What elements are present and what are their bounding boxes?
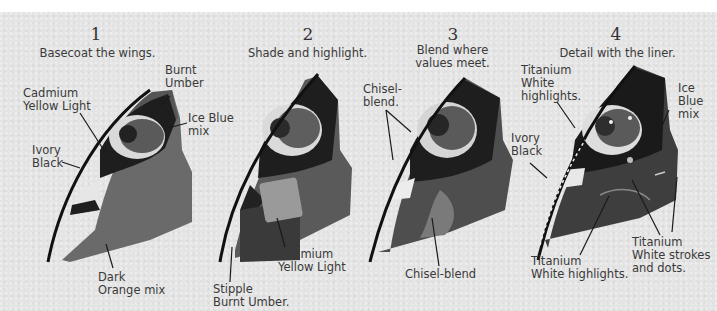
label-dark-orange-mix: Dark Orange mix — [98, 271, 165, 297]
label-ice-blue-mix: Ice Blue mix — [188, 112, 234, 138]
label-burnt-umber: Burnt Umber — [165, 64, 204, 90]
label-cadmium-yellow-light-2: Cadmium Yellow Light — [278, 248, 346, 274]
step-2-number: 2 — [293, 24, 323, 44]
step-4-number: 4 — [601, 24, 631, 44]
label-stipple-burnt-umber: Stipple Burnt Umber. — [213, 283, 289, 309]
label-ice-blue-mix-4: Ice Blue mix — [678, 82, 703, 121]
step-3-number: 3 — [438, 24, 468, 44]
label-chisel-blend-bottom: Chisel-blend — [405, 268, 476, 281]
label-titanium-white-highlights-bottom: Titanium White highlights. — [531, 255, 628, 281]
step-3-title: Blend where values meet. — [400, 44, 505, 70]
wing-2 — [220, 74, 352, 262]
step-4-title: Detail with the liner. — [550, 47, 685, 60]
label-chisel-blend-top: Chisel- blend. — [363, 83, 402, 109]
wing-1 — [48, 90, 192, 262]
label-ivory-black-4: Ivory Black — [511, 132, 542, 158]
step-2-title: Shade and highlight. — [245, 47, 370, 60]
label-cadmium-yellow-light: Cadmium Yellow Light — [23, 87, 91, 113]
step-1-title: Basecoat the wings. — [30, 47, 165, 60]
label-ivory-black: Ivory Black — [32, 144, 63, 170]
label-titanium-white-strokes: Titanium White strokes and dots. — [632, 236, 710, 275]
step-1-number: 1 — [81, 24, 111, 44]
label-titanium-white-highlights-top: Titanium White highlights. — [521, 64, 581, 103]
